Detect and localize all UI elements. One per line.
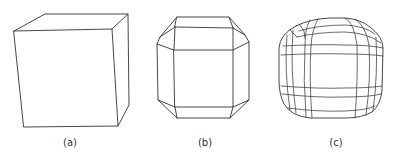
panel-b-beveled-cube xyxy=(157,17,249,118)
panel-a-label: (a) xyxy=(63,137,77,148)
panel-c-rounded-cube xyxy=(279,18,383,118)
panel-a-cube xyxy=(14,14,129,127)
panel-b-label: (b) xyxy=(198,137,212,148)
subdivision-figure: (a) (b) (c) xyxy=(0,0,396,162)
panel-c-label: (c) xyxy=(329,137,342,148)
